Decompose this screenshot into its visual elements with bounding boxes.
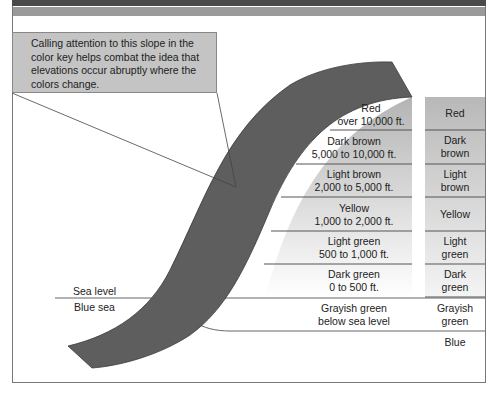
key-name: Grayish green — [321, 302, 387, 315]
short-name: Dark — [444, 268, 466, 281]
sea-level-label: Sea level — [73, 285, 116, 297]
short-name: Red — [445, 107, 464, 120]
key-range: 0 to 500 ft. — [329, 281, 379, 294]
short-name: Light — [444, 235, 467, 248]
short-name: Grayish — [437, 302, 473, 315]
short-name-line2: green — [442, 281, 469, 294]
key-row-light-brown: Light brown 2,000 to 5,000 ft. — [296, 165, 412, 197]
key-name: Light brown — [327, 168, 381, 181]
callout-pointer — [12, 93, 236, 187]
short-light-green: Light green — [425, 231, 485, 264]
key-name: Dark brown — [327, 135, 381, 148]
key-row-dark-green: Dark green 0 to 500 ft. — [296, 265, 412, 297]
short-name-line2: brown — [441, 147, 470, 160]
key-range: over 10,000 ft. — [337, 115, 404, 128]
short-red: Red — [425, 97, 485, 130]
short-dark-brown: Dark brown — [425, 130, 485, 164]
short-name: Dark — [444, 134, 466, 147]
short-name: Light — [444, 168, 467, 181]
short-name-line2: green — [442, 315, 469, 328]
key-range: 2,000 to 5,000 ft. — [315, 181, 394, 194]
short-yellow: Yellow — [425, 197, 485, 231]
key-row-grayish-green: Grayish green below sea level — [296, 299, 412, 331]
callout-box: Calling attention to this slope in the c… — [12, 32, 217, 93]
short-name: Yellow — [440, 208, 470, 221]
key-row-light-green: Light green 500 to 1,000 ft. — [296, 232, 412, 264]
key-row-dark-brown: Dark brown 5,000 to 10,000 ft. — [296, 131, 412, 164]
short-blue: Blue — [425, 333, 485, 351]
key-name: Dark green — [328, 268, 380, 281]
key-range: below sea level — [318, 315, 390, 328]
blue-sea-label: Blue sea — [74, 301, 115, 313]
key-range: 5,000 to 10,000 ft. — [312, 148, 397, 161]
short-grayish-green: Grayish green — [425, 298, 485, 331]
key-range: 1,000 to 2,000 ft. — [315, 215, 394, 228]
short-name: Blue — [444, 336, 465, 349]
callout-text: Calling attention to this slope in the c… — [31, 37, 199, 90]
key-name: Yellow — [339, 202, 369, 215]
short-name-line2: green — [442, 248, 469, 261]
key-name: Red — [361, 102, 380, 115]
key-row-yellow: Yellow 1,000 to 2,000 ft. — [296, 198, 412, 231]
short-name-line2: brown — [441, 181, 470, 194]
short-dark-green: Dark green — [425, 264, 485, 297]
key-name: Light green — [328, 235, 381, 248]
short-light-brown: Light brown — [425, 164, 485, 197]
key-row-red: Red over 10,000 ft. — [330, 99, 412, 130]
key-range: 500 to 1,000 ft. — [319, 248, 389, 261]
